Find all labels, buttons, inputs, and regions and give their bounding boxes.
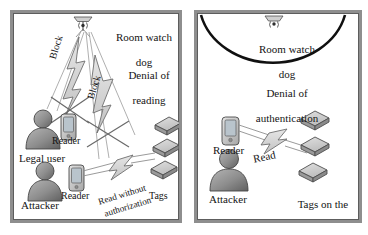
- figure-root: Room watch dog Denial of reading Block B…: [0, 0, 368, 235]
- tag-item: [299, 163, 327, 182]
- tag-stack: [151, 117, 179, 179]
- tag-item: [155, 117, 179, 135]
- panel-right-content: Room watch dog Denial of authentication …: [197, 13, 359, 220]
- device-label-reader-legal-user: Reader: [52, 135, 80, 146]
- actor-label-legal-user: Legal user: [19, 152, 65, 164]
- actor-label-attacker-right: Attacker: [209, 193, 247, 205]
- tags-label-left: Tags: [149, 190, 168, 201]
- panel-denial-of-authentication: Room watch dog Denial of authentication …: [194, 10, 362, 223]
- panel-denial-of-reading: Room watch dog Denial of reading Block B…: [10, 10, 182, 223]
- device-label-reader-right: Reader: [213, 144, 244, 156]
- block-cross-lower: [87, 121, 129, 147]
- tags-label-right: Tags on the instrument: [275, 186, 349, 220]
- person-attacker: [28, 162, 62, 201]
- actor-label-attacker-left: Attacker: [21, 199, 59, 211]
- panel-left-content: Room watch dog Denial of reading Block B…: [13, 13, 179, 220]
- scenario-label-left: Denial of reading: [105, 57, 171, 119]
- signal-unauthorized-read: [83, 153, 155, 180]
- tag-item: [151, 161, 177, 179]
- device-label-reader-attacker: Reader: [61, 190, 89, 201]
- scenario-label-right: Denial of authentication: [223, 75, 329, 137]
- device-reader-attacker: [69, 165, 84, 191]
- tag-item: [301, 137, 329, 156]
- tag-item: [153, 139, 179, 157]
- antenna-icon: [265, 16, 283, 28]
- signal-bolt-block-upper: [63, 37, 85, 117]
